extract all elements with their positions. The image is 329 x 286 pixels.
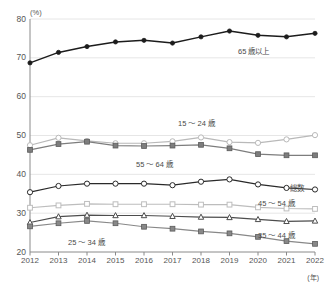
data-point: [142, 144, 147, 149]
data-point: [142, 202, 147, 207]
data-point: [312, 133, 317, 138]
data-point: [27, 143, 32, 148]
data-point: [28, 205, 33, 210]
data-point: [170, 213, 175, 218]
data-point: [56, 50, 60, 54]
x-tick-label: 2017: [158, 256, 188, 265]
series-label-35～44歳: 35 ～ 44 歳: [258, 229, 295, 240]
x-tick-label: 2012: [15, 256, 45, 265]
y-tick-label: 40: [2, 169, 26, 179]
y-tick-label: 80: [2, 14, 26, 24]
data-point: [199, 202, 204, 207]
x-tick-label: 2013: [44, 256, 74, 265]
y-tick-label: 30: [2, 208, 26, 218]
data-point: [256, 152, 261, 157]
data-point: [227, 146, 232, 151]
x-axis-unit-label: (年): [307, 272, 319, 282]
series-label-25～34歳: 25 ～ 34 歳: [68, 236, 105, 247]
data-point: [170, 183, 175, 188]
x-tick-marks: [30, 252, 315, 256]
y-tick-label: 50: [2, 130, 26, 140]
series-0: [28, 29, 317, 65]
data-point: [85, 44, 89, 48]
series-label-15～24歳: 15 ～ 24 歳: [178, 117, 215, 128]
data-point: [255, 216, 260, 221]
data-point: [199, 35, 203, 39]
data-point: [255, 182, 260, 187]
x-tick-label: 2021: [272, 256, 302, 265]
data-point: [56, 221, 61, 226]
data-point: [28, 61, 32, 65]
data-point: [170, 202, 175, 207]
data-point: [227, 215, 232, 220]
data-point: [56, 214, 61, 219]
data-point: [56, 142, 61, 147]
data-point: [312, 187, 317, 192]
y-axis-unit-label: (%): [30, 8, 42, 17]
x-tick-label: 2016: [129, 256, 159, 265]
x-tick-label: 2014: [72, 256, 102, 265]
data-point: [27, 190, 32, 195]
data-point: [142, 38, 146, 42]
data-point: [227, 177, 232, 182]
data-point: [313, 241, 318, 246]
x-tick-label: 2015: [101, 256, 131, 265]
data-point: [28, 224, 33, 229]
series-3: [27, 177, 317, 195]
y-tick-label: 20: [2, 247, 26, 257]
data-point: [255, 140, 260, 145]
data-point: [170, 41, 174, 45]
data-point: [84, 181, 89, 186]
data-point: [56, 135, 61, 140]
data-point: [284, 153, 289, 158]
data-point: [312, 218, 317, 223]
series-label-総数: 総数: [290, 182, 304, 193]
data-point: [113, 40, 117, 44]
data-point: [170, 226, 175, 231]
data-point: [198, 135, 203, 140]
data-point: [198, 179, 203, 184]
data-point: [85, 139, 90, 144]
series-label-55～64歳: 55 ～ 64 歳: [136, 158, 173, 169]
data-point: [28, 147, 33, 152]
data-point: [227, 140, 232, 145]
x-tick-label: 2019: [215, 256, 245, 265]
series-label-65歳以上: 65 歳以上: [238, 45, 269, 56]
series-label-45～54歳: 45 ～ 54 歳: [258, 197, 295, 208]
data-point: [227, 202, 232, 207]
data-point: [170, 143, 175, 148]
data-point: [313, 31, 317, 35]
data-point: [113, 181, 118, 186]
data-point: [56, 183, 61, 188]
data-point: [313, 206, 318, 211]
data-point: [198, 214, 203, 219]
x-tick-label: 2020: [243, 256, 273, 265]
data-point: [199, 142, 204, 147]
data-point: [113, 202, 118, 207]
data-point: [85, 219, 90, 224]
data-point: [284, 218, 289, 223]
data-point: [227, 231, 232, 236]
data-point: [142, 224, 147, 229]
data-point: [227, 29, 231, 33]
data-point: [313, 153, 318, 158]
data-point: [199, 229, 204, 234]
data-point: [113, 221, 118, 226]
data-point: [85, 201, 90, 206]
x-tick-label: 2018: [186, 256, 216, 265]
y-tick-label: 70: [2, 52, 26, 62]
data-point: [141, 181, 146, 186]
data-point: [113, 143, 118, 148]
data-point: [256, 33, 260, 37]
data-point: [284, 185, 289, 190]
data-point: [284, 35, 288, 39]
data-point: [284, 137, 289, 142]
data-point: [56, 203, 61, 208]
x-tick-label: 2022: [300, 256, 329, 265]
y-tick-label: 60: [2, 91, 26, 101]
